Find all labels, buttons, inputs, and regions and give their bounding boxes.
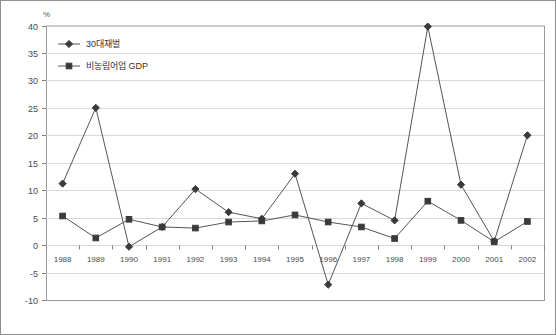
y-axis-tick-label: 5 (33, 214, 38, 224)
y-axis-tick-label: 20 (28, 131, 38, 141)
legend-label: 30대재벌 (86, 39, 120, 49)
data-point-marker (259, 218, 265, 224)
y-axis-tick-label: 35 (28, 49, 38, 59)
data-point-marker (60, 213, 66, 219)
data-point-marker (292, 212, 298, 218)
x-axis-tick-label: 1990 (120, 255, 138, 264)
line-chart-plot: 4035302520151050-5-10 198819891990199119… (0, 0, 556, 335)
y-axis-tick-label: -10 (25, 296, 38, 306)
x-axis-tick-label: 1994 (253, 255, 271, 264)
x-axis-tick-label: 1988 (54, 255, 72, 264)
x-axis-tick-label: 1997 (353, 255, 371, 264)
y-axis-tick-label: 0 (33, 241, 38, 251)
y-axis-tick-label: 15 (28, 159, 38, 169)
data-point-marker (525, 219, 531, 225)
data-point-marker (226, 219, 232, 225)
y-axis-tick-label: 10 (28, 186, 38, 196)
y-axis-tick-label: -5 (30, 269, 38, 279)
data-point-marker (491, 239, 497, 245)
x-axis-tick-label: 1992 (187, 255, 205, 264)
x-axis-tick-label: 1991 (153, 255, 171, 264)
x-axis-tick-label: 2002 (519, 255, 537, 264)
data-point-marker (93, 235, 99, 241)
x-axis-tick-label: 2001 (485, 255, 503, 264)
data-point-marker (193, 225, 199, 231)
data-point-marker (425, 198, 431, 204)
x-axis-tick-label: 1993 (220, 255, 238, 264)
legend-label: 비농림어업 GDP (86, 60, 148, 71)
data-point-marker (392, 236, 398, 242)
y-axis-tick-labels: 4035302520151050-5-10 (25, 22, 38, 306)
y-axis-tick-label: 25 (28, 104, 38, 114)
data-point-marker (359, 224, 365, 230)
x-axis-tick-label: 1995 (286, 255, 304, 264)
data-point-marker (325, 219, 331, 225)
x-axis-tick-label: 1999 (419, 255, 437, 264)
chart-container: % 4035302520151050-5-10 1988198919901991… (0, 0, 556, 335)
x-axis-tick-labels: 1988198919901991199219931994199519961997… (54, 255, 537, 264)
data-point-marker (126, 216, 132, 222)
x-axis-tick-label: 1996 (319, 255, 337, 264)
data-point-marker (458, 218, 464, 224)
legend-marker-icon (66, 63, 72, 69)
x-axis-tick-label: 1989 (87, 255, 105, 264)
y-axis-tick-label: 40 (28, 22, 38, 32)
y-axis-tick-label: 30 (28, 76, 38, 86)
data-point-marker (159, 224, 165, 230)
x-axis-tick-label: 2000 (452, 255, 470, 264)
x-axis-tick-label: 1998 (386, 255, 404, 264)
